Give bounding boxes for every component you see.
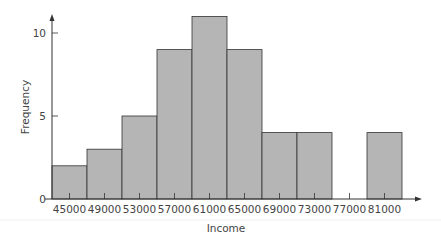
- x-axis-arrow-icon: [415, 197, 422, 202]
- x-tick-label: 49000: [88, 203, 121, 215]
- x-tick-label: 45000: [53, 203, 86, 215]
- x-tick-label: 69000: [263, 203, 296, 215]
- x-tick-label: 65000: [228, 203, 261, 215]
- x-axis-label: Income: [207, 222, 246, 234]
- histogram-bar: [262, 133, 297, 199]
- histogram-bar: [297, 133, 332, 199]
- x-tick-label: 81000: [368, 203, 401, 215]
- x-tick-label: 77000: [333, 203, 366, 215]
- histogram-bar: [367, 133, 402, 199]
- histogram-bar: [122, 116, 157, 199]
- histogram-bar: [87, 149, 122, 199]
- y-tick-label: 10: [33, 27, 46, 39]
- histogram-chart: 4500049000530005700061000650006900073000…: [0, 0, 441, 241]
- y-axis-arrow-icon: [50, 14, 55, 21]
- histogram-bar: [192, 16, 227, 199]
- y-tick-label: 0: [39, 193, 46, 205]
- histogram-bar: [227, 50, 262, 199]
- histogram-bar: [157, 50, 192, 199]
- x-tick-label: 53000: [123, 203, 156, 215]
- x-tick-label: 57000: [158, 203, 191, 215]
- y-tick-label: 5: [39, 110, 46, 122]
- x-tick-label: 61000: [193, 203, 226, 215]
- y-axis-label: Frequency: [19, 80, 31, 134]
- x-tick-label: 73000: [298, 203, 331, 215]
